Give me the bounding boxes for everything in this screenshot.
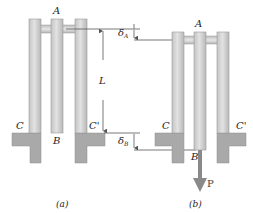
label-b-top: A [194,18,202,29]
right-bar-a [75,19,87,133]
caption-a: (a) [56,199,69,209]
label-delta-b: δB [118,135,129,147]
left-bar-a [29,19,41,133]
label-b-b: B [190,151,198,162]
label-a-top: A [52,5,60,16]
left-support-b [155,133,184,163]
left-support-a [12,133,41,163]
caption-b: (b) [189,199,202,209]
figure-a: A C C' B (a) [12,5,105,209]
label-load-p: P [207,178,214,189]
label-b-c-prime: C' [236,120,246,131]
label-a-c-prime: C' [89,120,99,131]
label-a-c: C [16,120,24,131]
middle-bar-b [194,32,206,150]
diagram-canvas: A C C' B (a) L δA δB [0,0,253,214]
right-support-b [217,133,246,163]
left-bar-b [172,32,184,133]
figure-b: A C C' B P (b) [155,18,246,209]
label-b-c: C [162,120,170,131]
label-length: L [98,75,106,86]
label-a-b: B [52,135,60,146]
right-bar-b [217,32,229,133]
middle-bar-a [51,19,63,133]
right-support-a [75,133,105,163]
